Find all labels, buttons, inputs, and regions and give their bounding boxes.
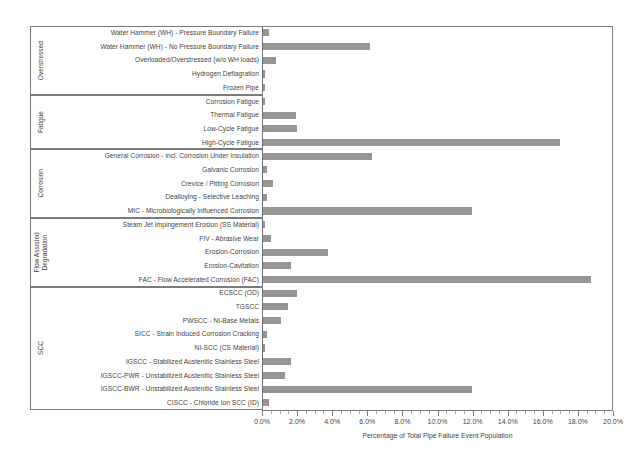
x-tick-label: 8.0% xyxy=(394,418,410,425)
group-label: Corrosion xyxy=(33,150,49,217)
bar xyxy=(263,399,269,406)
bar xyxy=(263,386,472,393)
group-box: Corrosion xyxy=(30,149,263,218)
x-minor-tick xyxy=(604,411,605,414)
x-minor-tick xyxy=(481,411,482,414)
x-tick-label: 2.0% xyxy=(289,418,305,425)
x-tick-label: 4.0% xyxy=(324,418,340,425)
x-major-tick xyxy=(508,411,509,416)
x-minor-tick xyxy=(516,411,517,414)
x-minor-tick xyxy=(323,411,324,414)
bar xyxy=(263,221,265,228)
bar xyxy=(263,98,265,105)
x-major-tick xyxy=(543,411,544,416)
bar xyxy=(263,207,472,214)
x-major-tick xyxy=(613,411,614,416)
x-minor-tick xyxy=(534,411,535,414)
x-minor-tick xyxy=(499,411,500,414)
x-minor-tick xyxy=(455,411,456,414)
x-major-tick xyxy=(438,411,439,416)
x-minor-tick xyxy=(315,411,316,414)
x-minor-tick xyxy=(341,411,342,414)
x-minor-tick xyxy=(560,411,561,414)
bar xyxy=(263,139,560,146)
x-tick-label: 6.0% xyxy=(359,418,375,425)
bar xyxy=(263,358,291,365)
group-box: Overstressed xyxy=(30,26,263,95)
x-major-tick xyxy=(578,411,579,416)
bar xyxy=(263,372,285,379)
x-minor-tick xyxy=(464,411,465,414)
group-label: Fatigue xyxy=(33,96,49,149)
x-major-tick xyxy=(473,411,474,416)
group-box: SCC xyxy=(30,287,263,410)
bar xyxy=(263,276,591,283)
x-minor-tick xyxy=(385,411,386,414)
x-minor-tick xyxy=(490,411,491,414)
x-minor-tick xyxy=(280,411,281,414)
x-minor-tick xyxy=(359,411,360,414)
group-box: Fatigue xyxy=(30,95,263,150)
x-minor-tick xyxy=(288,411,289,414)
x-minor-tick xyxy=(350,411,351,414)
x-minor-tick xyxy=(429,411,430,414)
x-minor-tick xyxy=(271,411,272,414)
bar xyxy=(263,153,372,160)
x-minor-tick xyxy=(569,411,570,414)
group-box: Flow Assisted Degradation xyxy=(30,218,263,287)
bar xyxy=(263,262,291,269)
x-major-tick xyxy=(367,411,368,416)
x-tick-label: 16.0% xyxy=(533,418,553,425)
x-tick-label: 20.0% xyxy=(603,418,623,425)
bar xyxy=(263,43,370,50)
bar xyxy=(263,331,267,338)
x-major-tick xyxy=(262,411,263,416)
x-minor-tick xyxy=(306,411,307,414)
x-major-tick xyxy=(297,411,298,416)
bar xyxy=(263,180,273,187)
x-minor-tick xyxy=(525,411,526,414)
x-tick-label: 0.0% xyxy=(254,418,270,425)
bar xyxy=(263,249,328,256)
x-minor-tick xyxy=(595,411,596,414)
x-tick-label: 14.0% xyxy=(498,418,518,425)
bar xyxy=(263,290,297,297)
x-minor-tick xyxy=(552,411,553,414)
bar xyxy=(263,317,281,324)
x-major-tick xyxy=(402,411,403,416)
x-major-tick xyxy=(332,411,333,416)
bar xyxy=(263,57,276,64)
bar xyxy=(263,125,297,132)
bar xyxy=(263,235,271,242)
bar xyxy=(263,166,267,173)
bar xyxy=(263,84,265,91)
bar xyxy=(263,29,269,36)
bar xyxy=(263,194,267,201)
x-minor-tick xyxy=(376,411,377,414)
x-minor-tick xyxy=(394,411,395,414)
x-minor-tick xyxy=(411,411,412,414)
x-tick-label: 10.0% xyxy=(428,418,448,425)
group-label: SCC xyxy=(33,288,49,409)
bar xyxy=(263,70,265,77)
x-axis-title: Percentage of Total Pipe Failure Event P… xyxy=(262,432,613,439)
bar xyxy=(263,112,296,119)
bar xyxy=(263,303,288,310)
x-tick-label: 18.0% xyxy=(568,418,588,425)
group-label: Flow Assisted Degradation xyxy=(33,219,49,286)
pipe-failure-bar-chart: Water Hammer (WH) - Pressure Boundary Fa… xyxy=(0,0,633,467)
x-minor-tick xyxy=(587,411,588,414)
x-minor-tick xyxy=(420,411,421,414)
x-minor-tick xyxy=(446,411,447,414)
x-tick-label: 12.0% xyxy=(463,418,483,425)
group-label: Overstressed xyxy=(33,27,49,94)
bar xyxy=(263,344,265,351)
